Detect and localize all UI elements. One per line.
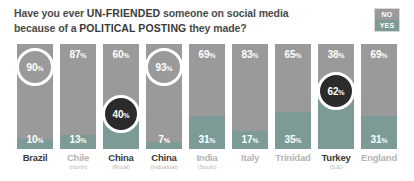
highlight-ring: 62%	[317, 72, 355, 110]
bar-value-no: 87%	[70, 49, 87, 135]
bar-value-no: 65%	[285, 49, 302, 112]
bar-stack: 69%31%	[361, 44, 397, 149]
category-label-india: India(South)	[189, 152, 225, 171]
bar-segment-no: 87%	[60, 44, 96, 135]
bar-column: 60%40%	[103, 44, 139, 149]
legend-item-yes: YES	[375, 20, 399, 31]
legend-label-yes: YES	[380, 22, 395, 29]
country-region: (South)	[189, 163, 225, 171]
category-label-italy: Italy	[232, 152, 268, 171]
category-label-turkey: Turkey(S.E)	[318, 152, 354, 171]
bar-value-no: 69%	[199, 49, 216, 116]
bar-value-yes: 31%	[199, 134, 216, 146]
headline-line-1: Have you ever UN-FRIENDED someone on soc…	[14, 6, 344, 21]
bar-stack: 87%13%	[60, 44, 96, 149]
country-name: China	[146, 152, 182, 163]
bar-segment-yes: 10%	[17, 139, 53, 149]
headline-text-2a: because of a	[14, 22, 79, 34]
headline-text-2b: they made?	[186, 22, 246, 34]
bar-value-no: 69%	[371, 49, 388, 116]
bar-value-yes: 7%	[158, 134, 169, 146]
bar-group: 10%90%87%13%60%40%7%93%69%31%83%17%65%35…	[17, 44, 397, 149]
country-name: England	[361, 152, 397, 163]
bar-segment-yes: 35%	[275, 112, 311, 149]
highlight-ring: 93%	[145, 48, 183, 86]
headline-text-1a: Have you ever	[14, 7, 87, 19]
category-label-chile: Chile(North)	[60, 152, 96, 171]
category-label-brazil: Brazil	[17, 152, 53, 171]
country-name: Italy	[232, 152, 268, 163]
headline-emphasis-political-posting: POLITICAL POSTING	[79, 22, 186, 34]
bar-value-yes: 17%	[242, 134, 259, 146]
bar-column: 7%93%	[146, 44, 182, 149]
country-region: (S.E)	[318, 163, 354, 171]
legend-item-no: NO	[375, 9, 399, 20]
headline-line-2: because of a POLITICAL POSTING they made…	[14, 21, 344, 36]
bar-value-yes: 10%	[27, 134, 44, 146]
bar-segment-yes: 31%	[189, 116, 225, 149]
category-label-china: China(Industrial)	[146, 152, 182, 171]
highlight-ring: 90%	[16, 48, 54, 86]
bar-column: 69%31%	[189, 44, 225, 149]
bar-segment-no: 83%	[232, 44, 268, 131]
bar-column: 87%13%	[60, 44, 96, 149]
bar-segment-yes: 31%	[361, 116, 397, 149]
bar-stack: 65%35%	[275, 44, 311, 149]
stacked-bar-chart: 10%90%87%13%60%40%7%93%69%31%83%17%65%35…	[0, 44, 414, 181]
bar-segment-no: 69%	[189, 44, 225, 116]
bar-segment-yes: 17%	[232, 131, 268, 149]
category-axis-labels: BrazilChile(North)China(Rural)China(Indu…	[17, 152, 397, 171]
bar-column: 83%17%	[232, 44, 268, 149]
bar-segment-yes: 7%	[146, 142, 182, 149]
bar-column: 65%35%	[275, 44, 311, 149]
country-region: (North)	[60, 163, 96, 171]
category-label-england: England	[361, 152, 397, 171]
headline-text-1b: someone on social media	[160, 7, 288, 19]
bar-stack: 69%31%	[189, 44, 225, 149]
category-label-china: China(Rural)	[103, 152, 139, 171]
bar-segment-no: 65%	[275, 44, 311, 112]
bar-value-yes: 35%	[285, 134, 302, 146]
country-name: India	[189, 152, 225, 163]
bar-column: 69%31%	[361, 44, 397, 149]
country-name: Brazil	[17, 152, 53, 163]
bar-value-no: 83%	[242, 49, 259, 131]
bar-segment-yes: 13%	[60, 135, 96, 149]
country-name: Chile	[60, 152, 96, 163]
category-label-trinidad: Trinidad	[275, 152, 311, 171]
country-name: Turkey	[318, 152, 354, 163]
bar-segment-no: 69%	[361, 44, 397, 116]
highlight-ring-value: 40%	[113, 109, 130, 120]
bar-stack: 83%17%	[232, 44, 268, 149]
chart-legend: NO YES	[374, 8, 400, 32]
page-title: Have you ever UN-FRIENDED someone on soc…	[14, 6, 344, 35]
bar-column: 10%90%	[17, 44, 53, 149]
bar-value-yes: 31%	[371, 134, 388, 146]
bar-column: 38%62%	[318, 44, 354, 149]
country-region: (Industrial)	[146, 163, 182, 171]
country-name: China	[103, 152, 139, 163]
country-name: Trinidad	[275, 152, 311, 163]
highlight-ring-value: 62%	[328, 86, 345, 97]
highlight-ring-value: 93%	[156, 62, 173, 73]
highlight-ring: 40%	[102, 95, 140, 133]
legend-label-no: NO	[382, 11, 393, 18]
bar-value-yes: 13%	[70, 134, 87, 146]
highlight-ring-value: 90%	[27, 62, 44, 73]
headline-emphasis-unfriended: UN-FRIENDED	[87, 7, 160, 19]
country-region: (Rural)	[103, 163, 139, 171]
